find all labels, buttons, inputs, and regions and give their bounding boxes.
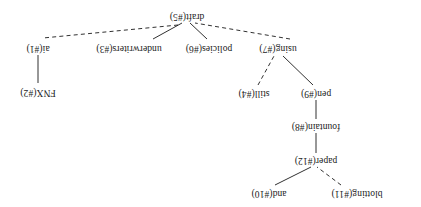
tree-node-using: using(#7) xyxy=(259,43,296,53)
tree-edge xyxy=(195,23,290,39)
tree-edge xyxy=(275,167,311,185)
tree-node-policies: policies(#6) xyxy=(186,43,233,53)
dependency-tree-diagram: blotting(#11)and(#10)paper(#12)fountain(… xyxy=(0,0,421,207)
tree-node-fountain: fountain(#8) xyxy=(292,121,341,131)
tree-edge xyxy=(283,56,313,85)
tree-node-and: and(#10) xyxy=(251,188,286,198)
tree-edge xyxy=(258,56,274,85)
edge-layer xyxy=(0,0,421,207)
tree-node-still: still(#4) xyxy=(239,88,270,98)
tree-edge xyxy=(190,23,207,39)
tree-node-ai: ai(#1) xyxy=(26,43,49,53)
tree-node-underwriters: underwriters(#3) xyxy=(96,43,161,53)
tree-edge xyxy=(317,167,341,185)
tree-node-paper: paper(#12) xyxy=(295,155,338,165)
tree-node-pen: pen(#9) xyxy=(301,88,331,98)
tree-node-blotting: blotting(#11) xyxy=(331,188,382,198)
tree-node-FNX: FNX(#2) xyxy=(20,87,56,97)
tree-node-draft: draft(#5) xyxy=(170,11,205,21)
